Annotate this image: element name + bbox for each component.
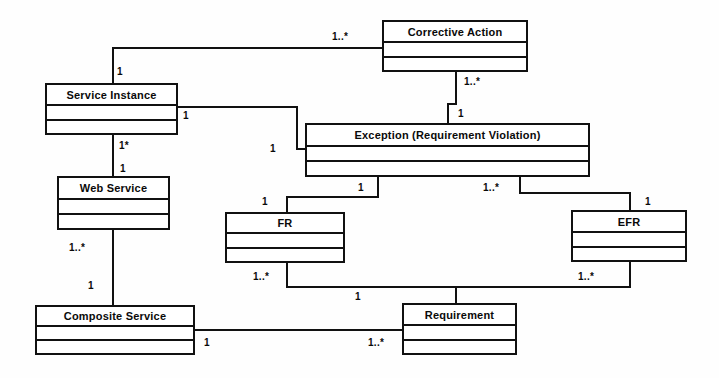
class-box-exception[interactable]: Exception (Requirement Violation)	[305, 123, 590, 177]
class-operations-exception	[307, 162, 588, 175]
association-line-segment	[112, 47, 384, 49]
class-box-fr[interactable]: FR	[225, 212, 345, 263]
class-name-composite-service: Composite Service	[37, 307, 193, 327]
association-line-segment	[286, 286, 458, 288]
multiplicity-label: 1..*	[483, 182, 499, 193]
multiplicity-label: 1..*	[69, 242, 85, 253]
multiplicity-label: 1..*	[578, 271, 594, 282]
class-box-service-instance[interactable]: Service Instance	[45, 83, 178, 135]
class-name-service-instance: Service Instance	[47, 85, 176, 106]
association-line-segment	[112, 135, 114, 178]
class-box-composite-service[interactable]: Composite Service	[35, 305, 195, 355]
multiplicity-label: 1	[358, 182, 364, 193]
class-attributes-efr	[573, 233, 685, 248]
association-line-segment	[377, 177, 379, 198]
class-attributes-fr	[227, 234, 343, 249]
association-line-segment	[629, 262, 631, 288]
class-box-requirement[interactable]: Requirement	[402, 303, 517, 355]
class-operations-web-service	[59, 215, 168, 228]
association-line-segment	[178, 106, 298, 108]
class-name-requirement: Requirement	[404, 305, 515, 326]
multiplicity-label: 1	[88, 280, 94, 291]
association-line-segment	[455, 72, 457, 105]
class-name-corrective-action: Corrective Action	[384, 22, 526, 43]
multiplicity-label: 1*	[119, 140, 129, 151]
association-line-segment	[195, 329, 403, 331]
class-attributes-web-service	[59, 200, 168, 215]
class-attributes-requirement	[404, 326, 515, 341]
multiplicity-label: 1..*	[332, 31, 348, 42]
association-line-segment	[296, 106, 298, 150]
multiplicity-label: 1	[204, 337, 210, 348]
multiplicity-label: 1..*	[368, 337, 384, 348]
multiplicity-label: 1	[645, 196, 651, 207]
uml-class-diagram-canvas: 11..*1..*1111*11..*1111..*11..*1..*111..…	[0, 0, 719, 378]
multiplicity-label: 1	[183, 110, 189, 121]
class-name-exception: Exception (Requirement Violation)	[307, 125, 588, 147]
class-attributes-composite-service	[37, 327, 193, 341]
class-box-efr[interactable]: EFR	[571, 210, 687, 262]
class-operations-requirement	[404, 341, 515, 354]
association-line-segment	[112, 230, 114, 307]
class-attributes-corrective-action	[384, 43, 526, 58]
class-attributes-exception	[307, 147, 588, 162]
association-line-segment	[629, 192, 631, 212]
class-operations-corrective-action	[384, 58, 526, 71]
class-name-web-service: Web Service	[59, 178, 168, 200]
class-operations-composite-service	[37, 341, 193, 353]
multiplicity-label: 1	[262, 196, 268, 207]
association-line-segment	[455, 286, 631, 288]
multiplicity-label: 1..*	[253, 271, 269, 282]
class-operations-fr	[227, 249, 343, 262]
association-line-segment	[286, 196, 379, 198]
class-operations-efr	[573, 248, 685, 261]
association-line-segment	[286, 263, 288, 288]
association-line-segment	[447, 103, 449, 125]
class-attributes-service-instance	[47, 106, 176, 121]
multiplicity-label: 1	[270, 143, 276, 154]
association-line-segment	[112, 47, 114, 84]
class-box-corrective-action[interactable]: Corrective Action	[382, 20, 528, 72]
multiplicity-label: 1	[458, 108, 464, 119]
multiplicity-label: 1	[120, 163, 126, 174]
multiplicity-label: 1..*	[464, 76, 480, 87]
class-operations-service-instance	[47, 121, 176, 134]
multiplicity-label: 1	[355, 291, 361, 302]
class-box-web-service[interactable]: Web Service	[57, 176, 170, 230]
multiplicity-label: 1	[117, 66, 123, 77]
class-name-efr: EFR	[573, 212, 685, 233]
association-line-segment	[519, 192, 631, 194]
class-name-fr: FR	[227, 214, 343, 234]
